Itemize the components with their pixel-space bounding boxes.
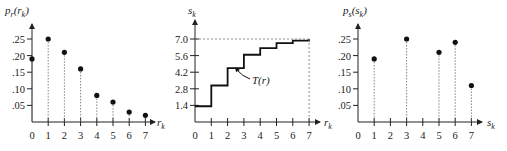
- mid-x-axis-title: rk: [324, 116, 332, 131]
- left-x-axis-title: rk: [157, 116, 165, 131]
- x-tick-label: 2: [225, 130, 230, 141]
- y-tick-label: 4.2: [175, 67, 188, 78]
- y-tick-label: 2.8: [175, 84, 188, 95]
- y-tick-label: 7.0: [175, 34, 188, 45]
- y-tick-label: .05: [12, 100, 25, 111]
- x-tick-label: 4: [420, 130, 426, 141]
- right-x-axis-title: sk: [487, 116, 495, 131]
- transformation-function-chart: 012345671.42.84.25.67.0: [175, 20, 320, 141]
- data-point: [29, 56, 34, 61]
- y-tick-label: .05: [338, 100, 351, 111]
- step-function-line: [195, 39, 309, 106]
- x-tick-label: 6: [453, 130, 458, 141]
- x-tick-label: 4: [94, 130, 100, 141]
- x-tick-label: 7: [469, 130, 474, 141]
- x-tick-label: 0: [192, 130, 197, 141]
- annotation-arrow: [237, 70, 250, 79]
- x-tick-label: 6: [290, 130, 295, 141]
- transformation-annotation: T(r): [252, 74, 270, 87]
- data-point: [94, 93, 99, 98]
- data-point: [404, 36, 409, 41]
- y-tick-label: .25: [12, 34, 25, 45]
- x-tick-label: 7: [306, 130, 311, 141]
- y-tick-label: .10: [12, 84, 25, 95]
- y-tick-label: .15: [338, 67, 351, 78]
- data-point: [62, 50, 67, 55]
- x-tick-label: 3: [241, 130, 246, 141]
- x-tick-label: 0: [355, 130, 360, 141]
- y-tick-label: .25: [338, 34, 351, 45]
- mid-y-axis-title: sk: [188, 4, 196, 19]
- data-point: [143, 113, 148, 118]
- x-tick-label: 1: [46, 130, 51, 141]
- input-histogram-chart: 01234567.05.10.15.20.25: [12, 24, 155, 141]
- x-tick-label: 2: [62, 130, 67, 141]
- data-point: [127, 109, 132, 114]
- data-point: [78, 66, 83, 71]
- histogram-equalization-figure: 01234567.05.10.15.20.25 012345671.42.84.…: [0, 0, 507, 151]
- y-tick-label: 1.4: [175, 100, 189, 111]
- y-tick-label: .15: [12, 67, 25, 78]
- x-tick-label: 1: [372, 130, 377, 141]
- data-point: [453, 40, 458, 45]
- x-tick-label: 6: [127, 130, 132, 141]
- y-tick-label: .10: [338, 84, 351, 95]
- data-point: [46, 36, 51, 41]
- left-y-axis-title: pr(rk): [4, 4, 29, 19]
- x-tick-label: 0: [29, 130, 34, 141]
- y-tick-label: 5.6: [175, 51, 188, 62]
- data-point: [469, 83, 474, 88]
- x-tick-label: 5: [110, 130, 115, 141]
- x-tick-label: 2: [388, 130, 393, 141]
- data-point: [372, 56, 377, 61]
- y-tick-label: .20: [12, 51, 25, 62]
- x-tick-label: 3: [404, 130, 409, 141]
- data-point: [110, 99, 115, 104]
- x-tick-label: 5: [436, 130, 441, 141]
- right-y-axis-title: ps(sk): [342, 4, 367, 19]
- x-tick-label: 1: [209, 130, 214, 141]
- x-tick-label: 7: [143, 130, 148, 141]
- equalized-histogram-chart: 01234567.05.10.15.20.25: [338, 24, 482, 141]
- x-tick-label: 3: [78, 130, 83, 141]
- y-tick-label: .20: [338, 51, 351, 62]
- x-tick-label: 4: [258, 130, 264, 141]
- x-tick-label: 5: [274, 130, 279, 141]
- data-point: [436, 50, 441, 55]
